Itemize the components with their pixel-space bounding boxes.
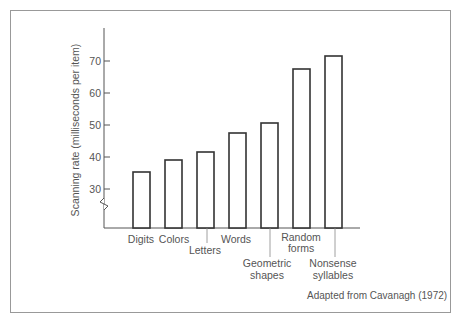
- ytick-40: 40: [89, 151, 101, 163]
- axis-break-icon: [100, 198, 108, 210]
- bar-colors: [165, 160, 182, 228]
- xlabel-digits: Digits: [128, 233, 154, 245]
- xlabel-geometric: Geometric: [243, 257, 291, 269]
- ytick-60: 60: [89, 87, 101, 99]
- bar-random-forms: [293, 69, 310, 228]
- xlabel-forms: forms: [288, 242, 314, 254]
- xlabel-colors: Colors: [159, 233, 189, 245]
- xlabel-words: Words: [221, 233, 251, 245]
- bar-nonsense-syllables: [325, 56, 342, 228]
- bar-letters: [197, 152, 214, 228]
- ytick-50: 50: [89, 119, 101, 131]
- ytick-70: 70: [89, 55, 101, 67]
- bar-words: [229, 133, 246, 228]
- xlabel-syllables: syllables: [313, 269, 353, 281]
- xlabel-nonsense: Nonsense: [309, 257, 356, 269]
- y-axis-label: Scanning rate (milliseconds per item): [69, 44, 81, 217]
- ytick-30: 30: [89, 183, 101, 195]
- xlabel-letters: Letters: [189, 244, 221, 256]
- bar-chart: 30 40 50 60 70 Scanning rate (millisecon…: [0, 0, 459, 325]
- bar-geometric-shapes: [261, 123, 278, 228]
- bar-digits: [133, 172, 150, 228]
- xlabel-shapes: shapes: [250, 269, 284, 281]
- source-credit: Adapted from Cavanagh (1972): [307, 290, 447, 301]
